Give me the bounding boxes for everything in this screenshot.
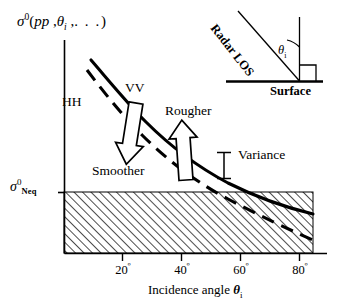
y-axis-close-paren: ) (101, 13, 106, 29)
radar-backscatter-figure: σ0(pp ,θi ,. . .) σ0Neq 20º 40º 60º 80º … (0, 0, 343, 308)
curve-label-hh: HH (62, 95, 82, 109)
neq-sigma: σ (10, 179, 17, 194)
y-axis-comma-1: , (49, 13, 57, 29)
inset-angle-label: θi (278, 44, 286, 60)
x-tick-label-80: 80º (287, 262, 313, 277)
x-axis-theta-subscript: i (240, 290, 243, 300)
x-axis-theta: θ (233, 282, 240, 297)
y-axis-title: σ0(pp ,θi ,. . .) (17, 13, 106, 33)
annotation-label-smoother: Smoother (92, 164, 145, 178)
x-tick-20-value: 20 (115, 263, 128, 277)
noise-floor-region (64, 192, 313, 253)
sigma-zero-neq-label: σ0Neq (10, 178, 37, 196)
rougher-arrow (168, 119, 200, 181)
x-tick-60-value: 60 (233, 263, 246, 277)
inset-theta-subscript: i (284, 51, 286, 60)
x-axis-ticks (123, 254, 300, 262)
x-tick-40-degree: º (187, 261, 190, 271)
annotation-label-rougher: Rougher (165, 104, 212, 118)
x-tick-label-40: 40º (169, 262, 195, 277)
inset-surface-label: Surface (270, 85, 311, 98)
x-tick-20-degree: º (128, 261, 131, 271)
x-tick-60-degree: º (246, 261, 249, 271)
annotation-label-variance: Variance (238, 148, 285, 162)
x-tick-40-value: 40 (174, 263, 187, 277)
y-axis-pp: pp (34, 13, 49, 29)
x-axis-title-text: Incidence angle (148, 282, 230, 297)
x-tick-label-60: 60º (228, 262, 254, 277)
y-axis-theta: θ (57, 13, 64, 29)
neq-subscript: Neq (21, 186, 36, 196)
x-tick-80-degree: º (305, 261, 308, 271)
y-axis-ellipsis: . . . (74, 13, 101, 29)
x-tick-label-20: 20º (110, 262, 136, 277)
variance-error-bar (217, 152, 231, 179)
x-axis-title: Incidence angle θi (148, 283, 242, 300)
curve-label-vv: VV (125, 81, 145, 95)
x-tick-80-value: 80 (292, 263, 305, 277)
